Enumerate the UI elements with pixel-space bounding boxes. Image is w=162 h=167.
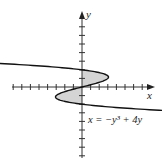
equation-label: x = −y³ + 4y	[87, 114, 142, 125]
graph: x y x = −y³ + 4y	[0, 0, 162, 167]
x-axis-label: x	[146, 89, 152, 101]
y-axis-arrow-icon	[79, 11, 85, 19]
y-axis-label: y	[85, 8, 91, 20]
